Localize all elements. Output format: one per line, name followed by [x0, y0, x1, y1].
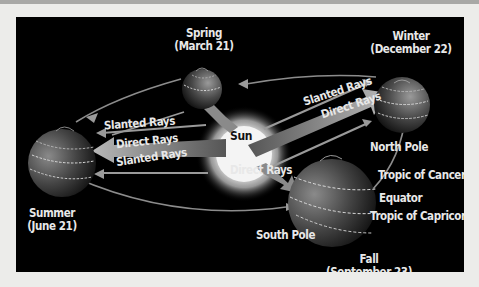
fall-label: Fall (September 23) — [324, 253, 414, 272]
top-strip — [0, 0, 479, 4]
seasons-diagram: Spring (March 21) Winter (December 22) S… — [16, 17, 464, 272]
spring-label: Spring (March 21) — [174, 27, 234, 53]
spring-date: (March 21) — [174, 40, 234, 53]
equator-label: Equator — [379, 192, 422, 205]
tropic-of-capricorn-label: Tropic of Capricorn — [370, 210, 464, 223]
north-pole-label: North Pole — [370, 141, 428, 154]
orbit-arrowhead — [238, 79, 248, 89]
south-pole-label: South Pole — [256, 229, 315, 242]
winter-label: Winter (December 22) — [366, 30, 456, 56]
spring-globe — [182, 68, 222, 109]
tropic-of-cancer-label: Tropic of Cancer — [378, 169, 464, 182]
summer-date: (June 21) — [24, 220, 80, 233]
ray-label-fall-direct: Direct Rays — [230, 164, 292, 177]
summer-globe — [28, 127, 96, 197]
winter-date: (December 22) — [366, 43, 456, 56]
winter-globe — [374, 77, 430, 133]
summer-label: Summer (June 21) — [24, 207, 80, 233]
sun-label: Sun — [230, 130, 252, 143]
fall-date: (September 23) — [324, 266, 414, 272]
